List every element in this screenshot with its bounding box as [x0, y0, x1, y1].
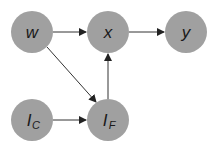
node-ic-subscript: C [32, 119, 40, 131]
node-y-label: y [181, 23, 192, 42]
node-x-label: x [103, 23, 113, 42]
node-if: I F [87, 99, 129, 141]
node-w: w [11, 11, 53, 53]
node-if-label: I [103, 111, 108, 130]
node-ic-label: I [27, 111, 32, 130]
node-ic: I C [11, 99, 53, 141]
edge-w-if [47, 47, 96, 102]
node-w-label: w [26, 23, 40, 42]
node-x: x [87, 11, 129, 53]
node-y: y [165, 11, 207, 53]
causal-graph: w x y I C I F [0, 0, 221, 148]
